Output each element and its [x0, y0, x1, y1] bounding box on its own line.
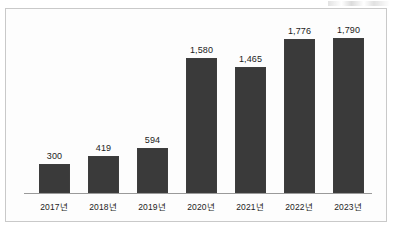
x-axis-tick-label: 2023년	[334, 200, 361, 212]
bar-value-label: 1,580	[190, 45, 213, 55]
bar-value-label: 419	[96, 143, 111, 153]
bar	[235, 67, 266, 193]
bar-value-label: 1,465	[239, 54, 262, 64]
x-axis-tick-label: 2021년	[236, 200, 263, 212]
bar	[39, 164, 70, 193]
bar	[186, 58, 217, 193]
bar-value-label: 594	[145, 135, 160, 145]
bar	[137, 148, 168, 193]
bar	[284, 39, 315, 193]
x-axis-tick-label: 2019년	[138, 200, 165, 212]
x-axis-tick-label: 2017년	[40, 200, 67, 212]
scan-artifact	[328, 1, 390, 6]
x-axis-tick-label: 2022년	[285, 200, 312, 212]
x-axis-line	[24, 193, 372, 194]
bar-value-label: 300	[47, 151, 62, 161]
plot-area: 300 2017년 419 2018년 594 2019년 1,580 2020…	[6, 9, 386, 221]
x-axis-tick-label: 2020년	[187, 200, 214, 212]
bar	[333, 38, 364, 193]
bar-value-label: 1,790	[337, 25, 360, 35]
chart-frame: 300 2017년 419 2018년 594 2019년 1,580 2020…	[5, 8, 387, 222]
x-axis-tick-label: 2018년	[89, 200, 116, 212]
bar	[88, 156, 119, 193]
bar-value-label: 1,776	[288, 26, 311, 36]
